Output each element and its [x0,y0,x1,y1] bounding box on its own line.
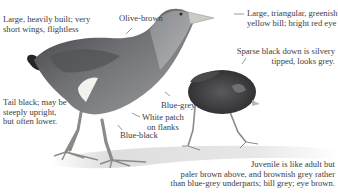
annotation-tail-line-3: but often lower. [3,117,67,127]
annotation-belly: Blue-black [120,131,158,141]
bird-illustration-plate: Large, heavily built; very short wings, … [0,0,338,193]
annotation-tail: Tail black; may be steeply upright, but … [3,98,67,127]
annotation-bill: Large, triangular, greenish yellow bill;… [247,9,338,28]
annotation-breast: Blue-grey [161,101,195,111]
annotation-chick-down-line-2: tipped, looks grey. [237,57,335,67]
annotation-bill-line-2: yellow bill; bright red eye [247,19,338,29]
annotation-juvenile: Juvenile is like adult but paler brown a… [171,160,335,189]
annotation-back: Olive-brown [119,14,163,24]
annotation-juvenile-line-3: than blue-grey underparts; bill grey; ey… [171,179,335,189]
annotation-build-line-2: short wings, flightless [3,25,90,35]
annotation-build: Large, heavily built; very short wings, … [3,15,90,34]
annotation-chick-down: Sparse black down is silvery tipped, loo… [237,47,335,66]
